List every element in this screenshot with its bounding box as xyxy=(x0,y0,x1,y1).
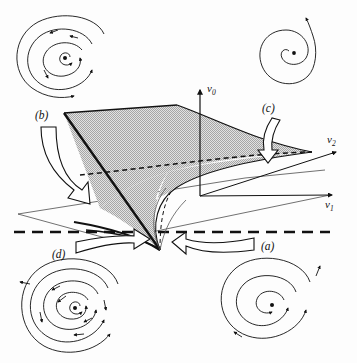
fixed-point-dot xyxy=(292,51,296,55)
callout-a-label: (a) xyxy=(261,240,275,253)
figure-canvas: v0 v1 v2 (b) (c) ( xyxy=(0,0,357,363)
callout-b-label: (b) xyxy=(35,109,49,122)
fixed-point-dot xyxy=(63,56,67,60)
fixed-point-dot xyxy=(270,303,274,307)
callout-c-label: (c) xyxy=(262,102,275,115)
catastrophe-surface-diagram: v0 v1 v2 (b) (c) ( xyxy=(0,0,357,363)
fixed-point-dot xyxy=(73,306,77,310)
